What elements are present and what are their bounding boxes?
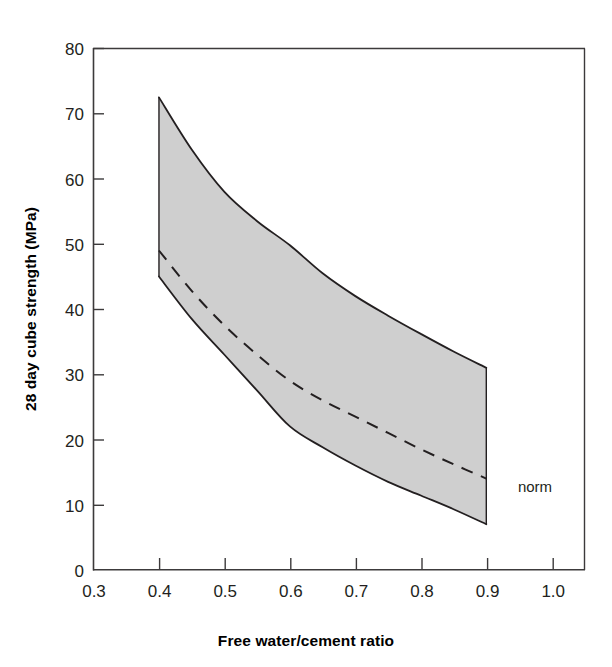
y-tick-label-80: 80 bbox=[65, 40, 84, 59]
y-tick-label-40: 40 bbox=[65, 301, 84, 320]
x-tick-label-0.7: 0.7 bbox=[345, 582, 369, 601]
x-axis-title: Free water/cement ratio bbox=[218, 632, 394, 649]
y-tick-label-10: 10 bbox=[65, 497, 84, 516]
x-tick-label-0.6: 0.6 bbox=[279, 582, 303, 601]
x-tick-label-0.9: 0.9 bbox=[476, 582, 500, 601]
x-tick-label-1.0: 1.0 bbox=[541, 582, 565, 601]
x-tick-label-0.4: 0.4 bbox=[148, 582, 172, 601]
x-tick-label-0.5: 0.5 bbox=[213, 582, 237, 601]
y-axis-tick-labels: 80 70 60 50 40 30 20 10 0 bbox=[65, 40, 84, 581]
chart-figure: 80 70 60 50 40 30 20 10 0 0.3 0.4 0.5 0.… bbox=[0, 0, 612, 667]
y-tick-label-0: 0 bbox=[75, 562, 84, 581]
y-tick-label-70: 70 bbox=[65, 105, 84, 124]
cube-strength-vs-wc-ratio-chart: 80 70 60 50 40 30 20 10 0 0.3 0.4 0.5 0.… bbox=[0, 0, 612, 667]
y-tick-label-50: 50 bbox=[65, 236, 84, 255]
norm-annotation-label: norm bbox=[518, 478, 552, 495]
y-tick-label-30: 30 bbox=[65, 366, 84, 385]
y-tick-label-20: 20 bbox=[65, 432, 84, 451]
x-tick-label-0.3: 0.3 bbox=[82, 582, 106, 601]
y-axis-title: 28 day cube strength (MPa) bbox=[22, 207, 39, 411]
x-tick-label-0.8: 0.8 bbox=[410, 582, 434, 601]
y-tick-label-60: 60 bbox=[65, 171, 84, 190]
